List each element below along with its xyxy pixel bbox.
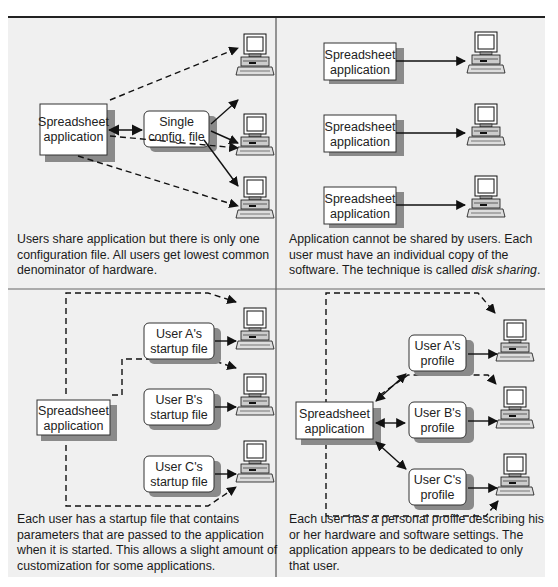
profile-box-label: User C's [414,473,462,487]
solid-arrow [211,100,238,124]
computer-icon [496,387,534,428]
app-box-label: Spreadsheet [325,48,396,62]
caption-user-profiles: Each user has a personal profile describ… [289,512,545,574]
file-box-label: startup file [150,342,208,356]
app-box-label: Spreadsheet [38,115,109,129]
profile-box-label: profile [420,421,454,435]
app-box-label: application [305,422,365,436]
file-box-label: startup file [150,475,208,489]
app-box-label: application [330,207,390,221]
config-box-label: Single [159,115,194,129]
app-box-label: application [330,63,390,77]
dashed-arrow [380,375,496,395]
diagram-canvas: Spreadsheet application Single config. f… [8,18,545,577]
app-box-label: Spreadsheet [325,120,396,134]
double-arrow [376,374,406,401]
file-box-label: User A's [156,327,202,341]
caption-emphasis: disk sharing [471,263,537,277]
dashed-arrow [110,48,238,100]
computer-icon [467,32,505,73]
caption-disk-sharing: Application cannot be shared by users. E… [289,232,545,279]
profile-box-label: profile [420,354,454,368]
profile-box-label: User A's [414,339,460,353]
computer-icon [236,374,274,415]
computer-icon [467,176,505,217]
app-box-label: application [330,135,390,149]
panel-user-profiles: Spreadsheet application User A's profile… [296,293,534,516]
profile-box-label: User B's [414,406,461,420]
diagram-figure: Spreadsheet application Single config. f… [8,16,545,577]
caption-text: . [537,263,540,277]
app-box-label: Spreadsheet [38,404,109,418]
file-box-label: startup file [150,408,208,422]
dashed-arrow [78,156,238,206]
panel-disk-sharing: Spreadsheet application Spreadsheet appl… [324,32,505,228]
computer-icon [496,454,534,495]
app-box-label: Spreadsheet [325,192,396,206]
computer-icon [236,441,274,482]
app-box-label: application [44,130,104,144]
panel-shared-config: Spreadsheet application Single config. f… [38,34,274,218]
computer-icon [236,177,274,218]
double-arrow [376,442,406,469]
app-box-label: application [44,419,104,433]
computer-icon [236,308,274,349]
file-box-label: User B's [156,393,203,407]
app-box-label: Spreadsheet [299,407,370,421]
panel-startup-files: Spreadsheet application User A's startup… [37,293,274,506]
profile-box-label: profile [420,488,454,502]
file-box-label: User C's [155,460,203,474]
computer-icon [236,114,274,155]
config-box-label: config. file [148,130,204,144]
caption-shared-config: Users share application but there is onl… [17,232,273,279]
computer-icon [496,320,534,361]
caption-startup-files: Each user has a startup file that contai… [17,512,279,574]
computer-icon [467,104,505,145]
computer-icon [236,34,274,75]
